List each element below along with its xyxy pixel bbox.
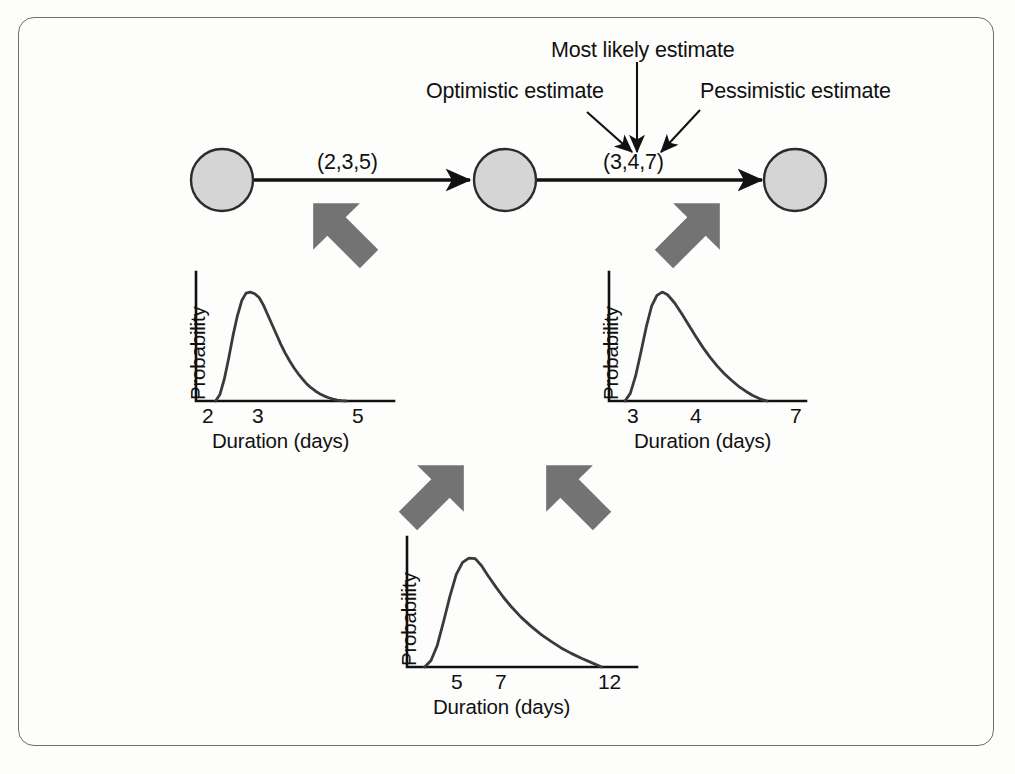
chart-activity-1 <box>196 272 394 401</box>
chart-activity-2-ylabel: Probability <box>599 306 623 400</box>
annotation-arrow-pessimistic <box>661 110 700 152</box>
chart-activity-2-curve <box>625 292 767 401</box>
chart-total-ylabel: Probability <box>397 572 421 666</box>
chart-activity-1-xtick-0: 2 <box>202 404 213 428</box>
chart-activity-2-xtick-1: 4 <box>690 404 701 428</box>
chart-activity-1-ylabel: Probability <box>186 306 210 400</box>
chart-activity-2-xlabel: Duration (days) <box>634 429 771 453</box>
chart-total <box>407 537 637 667</box>
chart-total-xlabel: Duration (days) <box>433 695 570 719</box>
annotation-label-most-likely: Most likely estimate <box>551 38 735 63</box>
chart-activity-1-xlabel: Duration (days) <box>212 429 349 453</box>
chart-activity-2-xtick-0: 3 <box>627 404 638 428</box>
chart-total-xtick-0: 5 <box>451 670 462 694</box>
annotation-label-optimistic: Optimistic estimate <box>426 79 604 104</box>
block-arrow-to-chart-1 <box>290 180 393 283</box>
network-node-n2[interactable] <box>474 149 536 211</box>
chart-total-xtick-1: 7 <box>495 670 506 694</box>
chart-activity-1-curve <box>216 292 347 401</box>
figure-root: Optimistic estimate Most likely estimate… <box>0 0 1015 774</box>
chart-total-curve <box>425 558 602 667</box>
chart-activity-2-xtick-2: 7 <box>790 404 801 428</box>
annotation-arrow-optimistic <box>587 112 632 152</box>
chart-activity-1-xtick-2: 5 <box>352 404 363 428</box>
block-arrow-to-chart-2 <box>641 180 744 283</box>
network-node-n1[interactable] <box>191 149 253 211</box>
edge-label-1: (2,3,5) <box>317 150 378 175</box>
chart-activity-1-xtick-1: 3 <box>252 404 263 428</box>
edge-label-2: (3,4,7) <box>603 150 664 175</box>
chart-activity-2 <box>609 272 806 401</box>
block-arrow-chart1-to-total <box>385 442 488 545</box>
diagram-vector-layer <box>0 0 1015 774</box>
block-arrow-chart2-to-total <box>523 442 626 545</box>
network-node-n3[interactable] <box>764 149 826 211</box>
chart-total-xtick-2: 12 <box>598 670 621 694</box>
annotation-label-pessimistic: Pessimistic estimate <box>700 79 891 104</box>
